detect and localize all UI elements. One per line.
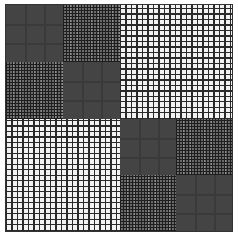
- dark-weave-square: [6, 62, 63, 119]
- dark-weave-square: [63, 5, 120, 62]
- open-grid-quadrant: [6, 119, 120, 231]
- light-check-square: [120, 119, 176, 175]
- light-check-square: [176, 175, 232, 231]
- open-grid-quadrant: [120, 5, 232, 119]
- pattern-frame: [5, 4, 233, 232]
- dark-weave-square: [176, 119, 232, 175]
- light-check-square: [63, 62, 120, 119]
- dark-weave-square: [120, 175, 176, 231]
- light-check-square: [6, 5, 63, 62]
